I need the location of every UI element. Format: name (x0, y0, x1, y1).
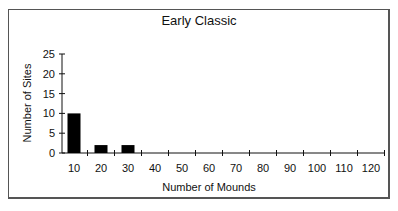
x-tick-label: 40 (149, 162, 161, 174)
x-tick-label: 70 (230, 162, 242, 174)
bar (122, 145, 135, 153)
y-tick-label: 10 (43, 107, 55, 119)
bar (68, 113, 81, 153)
y-tick-label: 0 (49, 147, 55, 159)
y-tick-label: 5 (49, 127, 55, 139)
plot-area: 0510152025102030405060708090100110120 (0, 0, 398, 211)
x-tick-label: 120 (362, 162, 380, 174)
y-tick-label: 20 (43, 68, 55, 80)
x-tick-label: 30 (122, 162, 134, 174)
x-tick-label: 110 (335, 162, 353, 174)
x-tick-label: 100 (308, 162, 326, 174)
y-tick-label: 15 (43, 88, 55, 100)
x-tick-label: 50 (176, 162, 188, 174)
x-tick-label: 10 (68, 162, 80, 174)
x-tick-label: 20 (95, 162, 107, 174)
bar (95, 145, 108, 153)
x-tick-label: 60 (203, 162, 215, 174)
x-tick-label: 90 (284, 162, 296, 174)
y-tick-label: 25 (43, 48, 55, 60)
x-tick-label: 80 (257, 162, 269, 174)
